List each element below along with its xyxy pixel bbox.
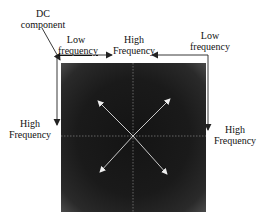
- top-left-low-frequency-label: Lowfrequency: [58, 34, 94, 56]
- top-center-high-frequency-label: HighFrequency: [112, 34, 156, 56]
- left-high-frequency-label: HighFrequency: [6, 118, 54, 140]
- right-high-frequency-label: HighFrequency: [210, 124, 260, 146]
- diagonal-arrow-up-right: [133, 99, 170, 136]
- top-right-low-frequency-label: Lowfrequency: [188, 30, 232, 52]
- dc-component-label: DCcomponent: [18, 8, 68, 30]
- diagonal-arrow-down-left: [100, 136, 133, 172]
- diagonal-arrow-up-left: [98, 101, 133, 136]
- diagonal-arrow-down-right: [133, 136, 167, 174]
